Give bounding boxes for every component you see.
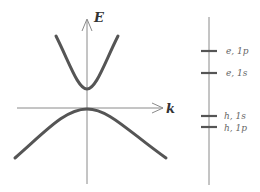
level-label-e-1s: e, 1s: [226, 68, 248, 78]
band-diagram: E k e, 1p e, 1s h, 1s h, 1p: [0, 0, 260, 192]
energy-axis-label: E: [93, 10, 105, 25]
level-label-e-1p: e, 1p: [226, 46, 249, 56]
dispersion-panel: E k: [15, 10, 175, 184]
energy-levels-panel: e, 1p e, 1s h, 1s h, 1p: [201, 17, 249, 185]
level-label-h-1s: h, 1s: [224, 111, 246, 121]
wavevector-axis-label: k: [166, 101, 175, 116]
valence-band-curve: [15, 109, 166, 158]
level-label-h-1p: h, 1p: [224, 123, 247, 133]
